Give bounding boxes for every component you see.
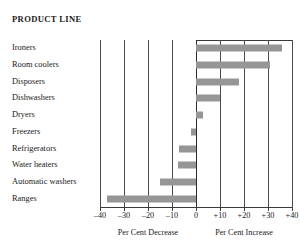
bar-dishwashers <box>196 95 220 102</box>
table-row: Ironers <box>0 40 300 57</box>
bar-disposers <box>196 78 239 85</box>
category-label: Room coolers <box>12 61 59 69</box>
category-label: Refrigerators <box>12 144 56 152</box>
category-label: Freezers <box>12 128 40 136</box>
tick-label--20: –20 <box>142 212 154 220</box>
bar-ironers <box>196 45 282 52</box>
bar-dryers <box>196 112 203 119</box>
table-row: Room coolers <box>0 57 300 74</box>
axis-caption-right: Per Cent Increase <box>215 229 273 237</box>
table-row: Disposers <box>0 73 300 90</box>
category-label: Dryers <box>12 111 35 119</box>
category-label: Water heaters <box>12 161 58 169</box>
tick-label--40: –40 <box>94 212 106 220</box>
tick-label-20: +20 <box>238 212 251 220</box>
bar-rows: IronersRoom coolersDisposersDishwashersD… <box>0 40 300 207</box>
tick-label--30: –30 <box>118 212 130 220</box>
category-label: Automatic washers <box>12 178 76 186</box>
table-row: Ranges <box>0 190 300 207</box>
tick-label--10: –10 <box>166 212 178 220</box>
table-row: Dryers <box>0 107 300 124</box>
table-row: Refrigerators <box>0 140 300 157</box>
bar-refrigerators <box>179 145 196 152</box>
table-row: Freezers <box>0 124 300 141</box>
bar-ranges <box>107 195 196 202</box>
page-title: PRODUCT LINE <box>12 14 82 24</box>
bar-freezers <box>191 128 196 135</box>
tick-label-0: 0 <box>194 212 198 220</box>
table-row: Dishwashers <box>0 90 300 107</box>
bar-automatic-washers <box>160 178 196 185</box>
bar-water-heaters <box>178 162 196 169</box>
category-label: Ironers <box>12 44 36 52</box>
tick-label-30: +30 <box>262 212 275 220</box>
bar-room-coolers <box>196 62 270 69</box>
chart-root: PRODUCT LINE IronersRoom coolersDisposer… <box>0 0 300 252</box>
tick-label-10: +10 <box>214 212 227 220</box>
axis-caption-left: Per Cent Decrease <box>118 229 178 237</box>
table-row: Water heaters <box>0 157 300 174</box>
category-label: Dishwashers <box>12 94 55 102</box>
table-row: Automatic washers <box>0 174 300 191</box>
category-label: Ranges <box>12 194 37 202</box>
category-label: Disposers <box>12 78 45 86</box>
tick-label-40: +40 <box>286 212 299 220</box>
